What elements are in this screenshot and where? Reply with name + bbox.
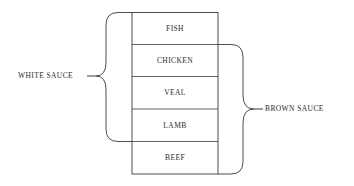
stack-item-lamb: LAMB [132, 109, 218, 141]
stack-item-beef: BEEF [132, 142, 218, 174]
stack-item-label: LAMB [163, 121, 186, 130]
right-brace-icon [218, 45, 254, 175]
stack-item-veal: VEAL [132, 77, 218, 109]
stack-item-label: VEAL [164, 88, 186, 97]
stack-item-fish: FISH [132, 13, 218, 45]
stack-item-chicken: CHICKEN [132, 45, 218, 77]
stack-item-label: CHICKEN [157, 56, 193, 65]
brown-sauce-label: BROWN SAUCE [265, 104, 324, 113]
stack-item-label: FISH [166, 24, 184, 33]
left-brace-icon [96, 13, 132, 142]
white-sauce-label: WHITE SAUCE [18, 71, 73, 80]
stack-item-label: BEEF [165, 153, 185, 162]
sauce-diagram: FISH CHICKEN VEAL LAMB BEEF WHITE SAUCE … [0, 0, 354, 186]
